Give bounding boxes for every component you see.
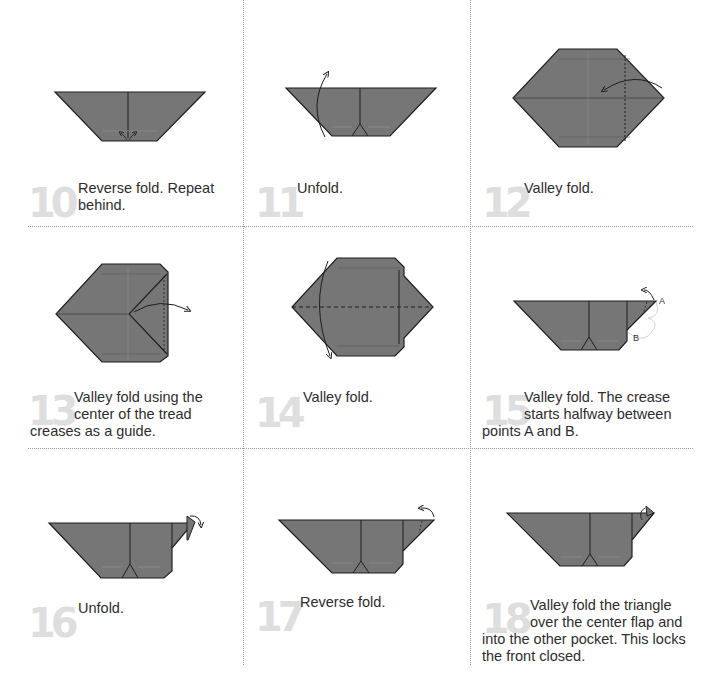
step-instruction: Unfold. (297, 180, 477, 197)
valley-fold-arrow-icon (644, 290, 654, 300)
step-instruction: Valley fold using the center of the trea… (74, 389, 254, 423)
step-16-diagram (49, 516, 201, 578)
step-number: 12 (482, 183, 528, 223)
step-instruction: Valley fold. (524, 180, 704, 197)
step-instruction: Reverse fold. Repeat behind. (78, 180, 258, 214)
step-instruction: Valley fold the triangle over the center… (530, 597, 714, 631)
reverse-fold-arrow-icon (421, 508, 434, 517)
point-label-b: B (633, 333, 639, 343)
step-instruction: Unfold. (78, 600, 258, 617)
diagrams-canvas: A B (0, 0, 714, 679)
point-label-a: A (659, 296, 665, 306)
step-instruction: Valley fold. The crease starts halfway b… (524, 389, 714, 423)
step-number: 16 (28, 603, 74, 643)
step-14-diagram (292, 258, 433, 356)
step-instruction-wrap: points A and B. (482, 423, 682, 440)
step-15-diagram: A B (514, 290, 665, 350)
step-instruction-wrap: creases as a guide. (30, 423, 230, 440)
step-10-diagram (55, 92, 205, 141)
step-instruction: Valley fold. (303, 389, 483, 406)
step-13-diagram (56, 264, 188, 362)
step-number: 14 (255, 393, 301, 433)
step-instruction: Reverse fold. (300, 594, 480, 611)
step-18-diagram (507, 506, 654, 566)
step-number: 10 (28, 183, 74, 223)
step-17-diagram (279, 508, 434, 573)
step-number: 17 (255, 597, 301, 637)
step-12-diagram (513, 49, 664, 147)
step-instruction-wrap: into the other pocket. This locks the fr… (482, 631, 714, 665)
step-number: 11 (255, 183, 301, 223)
step-11-diagram (286, 74, 436, 137)
